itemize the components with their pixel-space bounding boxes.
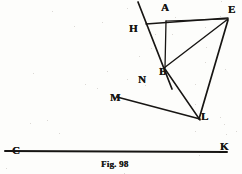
paper-speck bbox=[221, 1, 222, 2]
paper-speck bbox=[160, 67, 161, 68]
vertex-label-E: E bbox=[228, 4, 235, 15]
line-B-to-E bbox=[164, 19, 228, 68]
paper-speck bbox=[172, 34, 173, 35]
vertex-label-L: L bbox=[201, 111, 208, 122]
paper-speck bbox=[107, 71, 108, 72]
paper-speck bbox=[195, 104, 196, 105]
paper-speck bbox=[145, 85, 146, 86]
paper-speck bbox=[236, 131, 237, 132]
paper-speck bbox=[127, 79, 128, 80]
vertex-label-N: N bbox=[138, 74, 146, 85]
line-M-to-L bbox=[117, 97, 200, 119]
line-C-to-K bbox=[5, 151, 227, 152]
paper-speck bbox=[224, 124, 225, 125]
vertex-label-A: A bbox=[161, 2, 169, 13]
vertex-label-C: C bbox=[12, 145, 20, 156]
line-B-to-L bbox=[165, 69, 200, 120]
geometry-figure: A E H B N M L K C Fig. 98 bbox=[0, 0, 242, 174]
line-A-corner-vertical bbox=[165, 21, 166, 68]
figure-caption: Fig. 98 bbox=[101, 159, 128, 169]
paper-speck bbox=[195, 84, 196, 85]
paper-speck bbox=[205, 27, 206, 28]
paper-speck bbox=[47, 120, 48, 121]
paper-speck bbox=[102, 22, 103, 23]
paper-speck bbox=[155, 34, 156, 35]
paper-speck bbox=[195, 131, 196, 132]
vertex-label-M: M bbox=[110, 92, 120, 103]
vertex-label-H: H bbox=[129, 23, 138, 34]
line-E-to-L bbox=[199, 20, 228, 119]
paper-speck bbox=[147, 27, 148, 28]
paper-speck bbox=[220, 16, 221, 17]
paper-speck bbox=[220, 117, 221, 118]
vertex-label-K: K bbox=[220, 141, 229, 152]
paper-speck bbox=[151, 48, 152, 49]
figure-linework bbox=[0, 0, 242, 174]
